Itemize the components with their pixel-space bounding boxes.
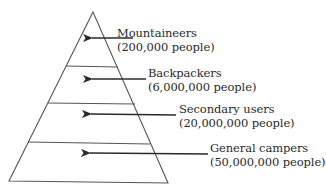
label-backpackers: Backpackers (6,000,000 people) xyxy=(148,66,256,94)
layer-divider-3 xyxy=(28,142,150,144)
layer-count: (50,000,000 people) xyxy=(210,155,326,169)
layer-name: Mountaineers xyxy=(117,26,215,40)
label-general-campers: General campers (50,000,000 people) xyxy=(210,141,326,169)
layer-divider-1 xyxy=(66,66,118,67)
layer-name: Backpackers xyxy=(148,66,256,80)
label-mountaineers: Mountaineers (200,000 people) xyxy=(117,26,215,54)
layer-count: (200,000 people) xyxy=(117,40,215,54)
layer-name: General campers xyxy=(210,141,326,155)
layer-count: (6,000,000 people) xyxy=(148,80,256,94)
label-secondary-users: Secondary users (20,000,000 people) xyxy=(179,102,295,130)
arrow-secondary-users-icon xyxy=(91,114,176,115)
layer-count: (20,000,000 people) xyxy=(179,116,295,130)
arrow-general-campers-icon xyxy=(90,153,208,154)
layer-name: Secondary users xyxy=(179,102,295,116)
layer-divider-2 xyxy=(48,103,135,104)
